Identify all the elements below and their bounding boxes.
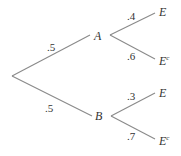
prob-b-ec: .7 [127, 131, 135, 142]
complement-mark: c [166, 134, 169, 142]
prob-a-ec: .6 [127, 51, 135, 62]
prob-a-e: .4 [127, 11, 135, 22]
tree-edges [0, 0, 181, 156]
prob-root-a: .5 [47, 42, 55, 53]
node-b: B [95, 110, 102, 122]
node-a: A [94, 30, 101, 42]
node-b-ec: Ec [159, 135, 169, 147]
node-a-ec: Ec [159, 55, 169, 67]
prob-root-b: .5 [45, 103, 53, 114]
node-b-e: E [159, 87, 166, 99]
node-a-e: E [159, 6, 166, 18]
prob-b-e: .3 [127, 91, 135, 102]
complement-mark: c [166, 54, 169, 62]
